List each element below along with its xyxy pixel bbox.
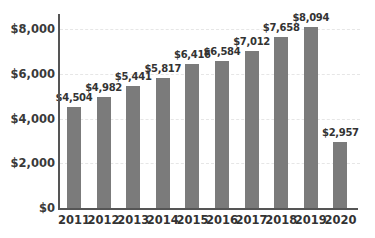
bar-2020 xyxy=(333,142,347,208)
y-tick-label: $6,000 xyxy=(11,67,55,81)
y-tick-label: $8,000 xyxy=(11,22,55,36)
y-tick-label: $4,000 xyxy=(11,112,55,126)
bar-2018 xyxy=(274,37,288,208)
x-axis-line xyxy=(58,208,358,210)
x-tick-label: 2012 xyxy=(88,213,120,227)
bar-2015 xyxy=(185,64,199,208)
data-label: $4,982 xyxy=(85,82,122,93)
x-tick-label: 2013 xyxy=(117,213,149,227)
x-tick-label: 2017 xyxy=(236,213,268,227)
y-axis-line xyxy=(58,14,60,209)
data-label: $6,584 xyxy=(204,46,241,57)
x-tick-label: 2011 xyxy=(58,213,90,227)
data-label: $7,658 xyxy=(263,22,300,33)
data-label: $7,012 xyxy=(233,36,270,47)
bar-2019 xyxy=(304,27,318,208)
x-tick-label: 2018 xyxy=(265,213,297,227)
bar-2016 xyxy=(215,61,229,208)
bar-2011 xyxy=(67,107,81,208)
data-label: $4,504 xyxy=(56,92,93,103)
x-tick-label: 2020 xyxy=(324,213,356,227)
bar-2017 xyxy=(245,51,259,208)
bar-2014 xyxy=(156,78,170,208)
data-label: $2,957 xyxy=(322,127,359,138)
y-tick-label: $2,000 xyxy=(11,156,55,170)
bar-2012 xyxy=(97,97,111,208)
x-tick-label: 2014 xyxy=(147,213,179,227)
x-tick-label: 2015 xyxy=(176,213,208,227)
bar-2013 xyxy=(126,86,140,208)
data-label: $5,817 xyxy=(144,63,181,74)
x-tick-label: 2019 xyxy=(295,213,327,227)
y-tick-label: $0 xyxy=(39,201,55,215)
bar-chart: $0$2,000$4,000$6,000$8,000 $4,504$4,982$… xyxy=(0,0,375,238)
data-label: $8,094 xyxy=(292,12,329,23)
x-tick-label: 2016 xyxy=(206,213,238,227)
